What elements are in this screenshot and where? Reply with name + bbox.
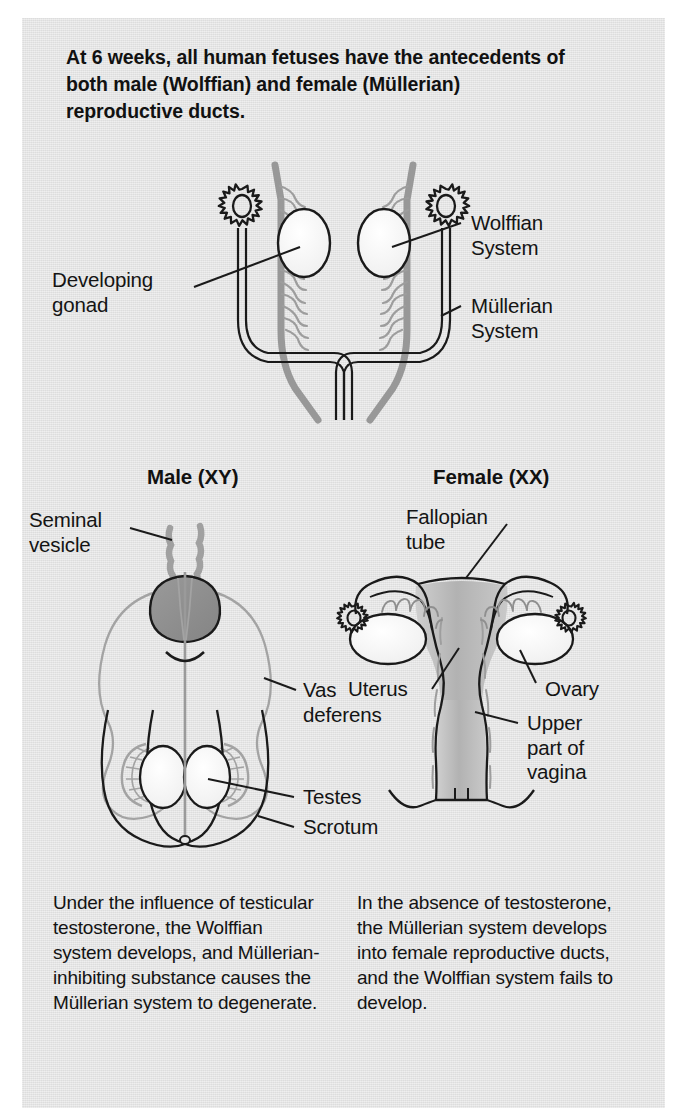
label-developing-gonad: Developing gonad: [52, 268, 153, 317]
ovary-left: [350, 614, 426, 664]
label-ovary: Ovary: [545, 677, 599, 702]
wolffian-ridge-right: [370, 165, 413, 420]
label-mullerian-system: Müllerian System: [471, 294, 553, 343]
label-uterus: Uterus: [348, 677, 407, 702]
label-fallopian-tube: Fallopian tube: [406, 505, 488, 554]
label-scrotum: Scrotum: [303, 815, 378, 840]
gonad-left: [278, 209, 330, 277]
male-diagram: [99, 526, 296, 847]
ovary-right: [497, 614, 573, 664]
testis-right: [184, 746, 230, 808]
label-seminal-vesicle: Seminal vesicle: [29, 508, 102, 557]
female-caption: In the absence of testosterone, the Müll…: [357, 890, 629, 1015]
label-testes: Testes: [303, 785, 361, 810]
leader-scrotum: [258, 816, 294, 827]
female-panel-heading: Female (XX): [433, 465, 549, 489]
label-wolffian-system: Wolffian System: [471, 211, 543, 260]
gear-rosette-right: [426, 184, 469, 225]
urethral-opening: [180, 836, 190, 844]
sexual-differentiation-figure: At 6 weeks, all human fetuses have the a…: [0, 0, 688, 1108]
label-upper-part-of-vagina: Upper part of vagina: [527, 711, 587, 785]
wolffian-ridge-left: [275, 165, 318, 420]
gear-rosette-left: [219, 184, 262, 225]
testis-left: [140, 746, 186, 808]
male-caption: Under the influence of testicular testos…: [53, 890, 321, 1015]
leader-vas-deferens: [264, 678, 296, 690]
top-indifferent-diagram: [194, 165, 469, 420]
uterus-fundus-fill: [415, 581, 507, 700]
male-panel-heading: Male (XY): [147, 465, 238, 489]
